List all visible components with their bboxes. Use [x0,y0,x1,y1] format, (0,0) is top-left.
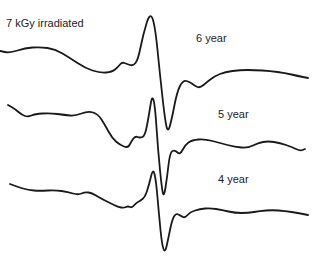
epr-spectra-figure: 7 kGy irradiated 6 year 5 year 4 year [0,0,316,263]
spectra-plot [0,0,316,263]
trace-4-year [10,172,308,251]
series-label-4-year: 4 year [218,173,249,185]
series-label-6-year: 6 year [196,32,227,44]
series-label-5-year: 5 year [218,108,249,120]
chart-title: 7 kGy irradiated [6,17,84,29]
